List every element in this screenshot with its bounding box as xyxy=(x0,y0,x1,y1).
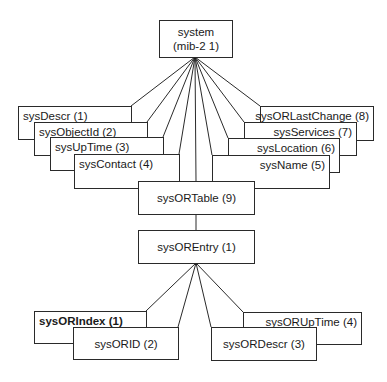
node-label: sysORLastChange (8) xyxy=(255,109,369,123)
node-label: sysContact (4) xyxy=(79,157,153,171)
node-sysORID: sysORID (2) xyxy=(73,327,179,360)
node-label: sysORTable (9) xyxy=(157,191,236,205)
node-system: system (mib-2 1) xyxy=(159,20,233,58)
node-sysORDescr: sysORDescr (3) xyxy=(211,327,317,361)
node-label: sysLocation (6) xyxy=(257,141,335,155)
node-label: sysORID (2) xyxy=(94,337,157,351)
node-label: sysUpTime (3) xyxy=(55,140,129,154)
node-sysOREntry: sysOREntry (1) xyxy=(138,230,255,264)
node-label: sysORIndex (1) xyxy=(39,314,123,328)
node-label: sysName (5) xyxy=(260,158,325,172)
node-system-oid: (mib-2 1) xyxy=(173,39,219,53)
node-label: sysORDescr (3) xyxy=(223,337,305,351)
node-sysORTable: sysORTable (9) xyxy=(138,181,255,215)
node-label: sysOREntry (1) xyxy=(157,240,236,254)
node-label: sysDescr (1) xyxy=(23,109,88,123)
node-label: sysServices (7) xyxy=(273,125,352,139)
node-system-label: system xyxy=(178,25,214,39)
